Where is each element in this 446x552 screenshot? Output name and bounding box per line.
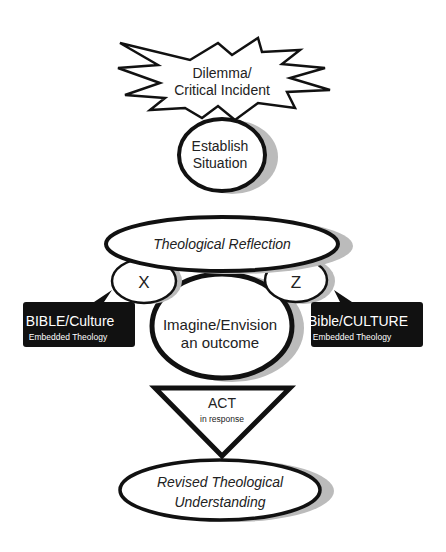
right-embedded-theology-box: Bible/CULTURE Embedded Theology [308, 290, 423, 347]
revised-line1: Revised Theological [157, 474, 284, 490]
right-box-title: Bible/CULTURE [308, 313, 408, 329]
imagine-line2: an outcome [181, 334, 259, 351]
act-subtitle: in response [200, 414, 244, 424]
theological-reflection-ellipse: Theological Reflection [106, 217, 353, 274]
reflection-label: Theological Reflection [153, 236, 291, 252]
establish-line2: Situation [193, 155, 247, 171]
z-label: Z [291, 273, 301, 292]
establish-situation-ellipse: Establish Situation [179, 119, 278, 194]
left-embedded-theology-box: BIBLE/Culture Embedded Theology [23, 290, 135, 347]
act-title: ACT [208, 395, 236, 411]
left-box-subtitle: Embedded Theology [29, 332, 108, 342]
imagine-line1: Imagine/Envision [163, 316, 277, 333]
revised-understanding-ellipse: Revised Theological Understanding [120, 460, 334, 522]
act-triangle: ACT in response [155, 388, 290, 456]
right-box-subtitle: Embedded Theology [313, 332, 392, 342]
flow-diagram: Dilemma/ Critical Incident Establish Sit… [0, 0, 446, 552]
diagram-canvas: Dilemma/ Critical Incident Establish Sit… [0, 0, 446, 552]
establish-line1: Establish [192, 138, 249, 154]
burst-line1: Dilemma/ [192, 65, 251, 81]
x-label: X [138, 273, 149, 292]
left-box-title: BIBLE/Culture [26, 313, 115, 329]
burst-line2: Critical Incident [174, 82, 270, 98]
revised-line2: Understanding [174, 494, 265, 510]
dilemma-burst: Dilemma/ Critical Incident [118, 38, 330, 120]
